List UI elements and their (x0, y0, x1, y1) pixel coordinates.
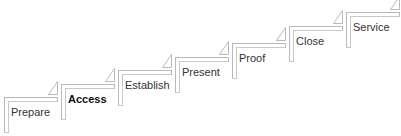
step-access: Access (61, 84, 115, 120)
step-label: Access (68, 93, 107, 105)
step-label: Close (296, 35, 324, 47)
step-present: Present (175, 57, 229, 93)
step-endcap (285, 43, 286, 48)
step-label: Establish (125, 79, 170, 91)
step-prepare: Prepare (4, 97, 58, 133)
step-close: Close (289, 26, 343, 62)
step-endcap (399, 12, 400, 17)
step-endcap (228, 57, 229, 62)
step-corner-triangle-icon (105, 68, 115, 82)
step-bottom-cap (4, 132, 9, 133)
step-bottom-cap (175, 92, 180, 93)
step-service: Service (346, 12, 400, 48)
step-corner-triangle-icon (48, 81, 58, 95)
step-corner-triangle-icon (219, 41, 229, 55)
step-label: Service (353, 21, 390, 33)
step-label: Prepare (11, 106, 50, 118)
step-bottom-cap (61, 119, 66, 120)
step-bottom-cap (289, 61, 294, 62)
step-label: Proof (239, 52, 265, 64)
step-establish: Establish (118, 70, 172, 106)
step-bottom-cap (118, 105, 123, 106)
step-corner-triangle-icon (333, 10, 343, 24)
step-corner-triangle-icon (390, 0, 400, 10)
step-corner-triangle-icon (162, 54, 172, 68)
step-endcap (57, 97, 58, 102)
step-endcap (171, 70, 172, 75)
step-proof: Proof (232, 43, 286, 79)
step-corner-triangle-icon (276, 27, 286, 41)
step-bottom-cap (232, 78, 237, 79)
step-bottom-cap (346, 47, 351, 48)
step-endcap (114, 84, 115, 89)
step-label: Present (182, 66, 220, 78)
step-endcap (342, 26, 343, 31)
